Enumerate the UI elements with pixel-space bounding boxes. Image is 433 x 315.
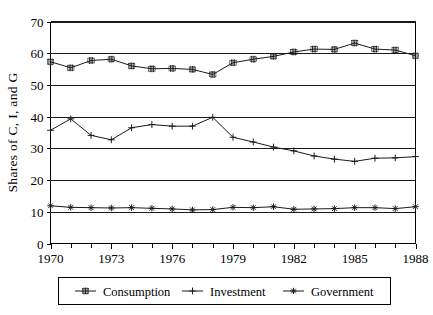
x-tick-label-1976: 1976 [159, 251, 186, 266]
y-tick-label-20: 20 [31, 173, 44, 188]
y-tick-label-30: 30 [31, 141, 44, 156]
legend-label-investment: Investment [210, 285, 266, 299]
x-tick-label-1985: 1985 [342, 251, 368, 266]
x-tick-label-1988: 1988 [403, 251, 429, 266]
chart-container: 010203040506070 197019731976197919821985… [0, 0, 433, 315]
x-tick-label-1973: 1973 [98, 251, 124, 266]
y-tick-label-60: 60 [31, 46, 44, 61]
x-tick-label-1982: 1982 [281, 251, 307, 266]
shares-line-chart: 010203040506070 197019731976197919821985… [0, 0, 433, 315]
y-axis-title: Shares of C, I, and G [5, 73, 20, 193]
x-tick-label-1979: 1979 [220, 251, 246, 266]
legend-label-government: Government [311, 285, 374, 299]
y-tick-label-40: 40 [31, 110, 44, 125]
y-tick-label-50: 50 [31, 78, 44, 93]
legend-label-consumption: Consumption [103, 285, 171, 299]
y-tick-label-10: 10 [31, 205, 44, 220]
x-tick-label-1970: 1970 [38, 251, 64, 266]
y-tick-label-70: 70 [31, 15, 44, 30]
